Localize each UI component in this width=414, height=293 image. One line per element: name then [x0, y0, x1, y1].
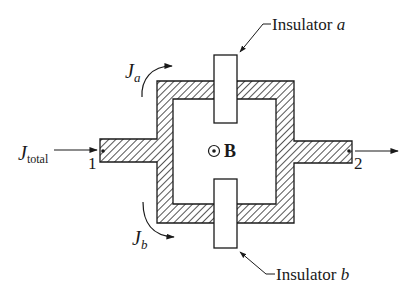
- j-total-label: Jtotal: [18, 142, 49, 166]
- b-field-out-of-page-icon: [209, 146, 220, 157]
- insulator-a-leader: [240, 24, 271, 52]
- insulator-b: [214, 179, 237, 248]
- j-a-label: Ja: [125, 60, 141, 85]
- node-1-label: 1: [88, 154, 97, 173]
- node-2-label: 2: [354, 154, 363, 173]
- conductor-loop-diagram: Insulator a Insulator b Jtotal 1 2 Ja Jb…: [0, 0, 414, 293]
- insulator-a: [214, 55, 237, 123]
- j-b-label: Jb: [132, 227, 148, 252]
- node-1-dot: [101, 149, 105, 153]
- node-2-dot: [347, 149, 351, 153]
- b-field-label: B: [224, 141, 236, 161]
- insulator-b-label: Insulator b: [276, 265, 349, 284]
- insulator-b-leader: [240, 252, 275, 274]
- insulator-a-label: Insulator a: [272, 15, 345, 34]
